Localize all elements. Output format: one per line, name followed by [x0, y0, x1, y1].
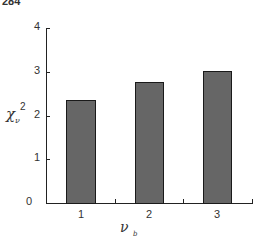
y-tick — [46, 72, 50, 73]
bar-1 — [66, 100, 96, 204]
ylabel-symbol: χ — [6, 105, 15, 123]
x-tick — [252, 199, 253, 203]
y-tick — [46, 116, 50, 117]
x-axis-label: ν b — [120, 219, 137, 237]
ylabel-subscript: ν — [15, 116, 20, 125]
x-tick — [115, 199, 116, 203]
y-tick — [46, 28, 50, 29]
bar-3 — [203, 71, 232, 204]
y-tick — [46, 159, 50, 160]
y-tick-label: 1 — [28, 151, 40, 163]
y-tick-label: 3 — [28, 64, 40, 76]
bar-2 — [135, 82, 164, 204]
x-tick — [183, 199, 184, 203]
y-axis-label: χν2 — [6, 104, 26, 125]
x-tick-label: 2 — [139, 208, 159, 220]
xlabel-subscript: b — [133, 230, 137, 237]
y-tick-label: 4 — [28, 20, 40, 32]
x-tick-label: 1 — [71, 208, 91, 220]
x-tick-label: 3 — [207, 208, 227, 220]
bar-chart: 4 3 2 1 0 1 2 3 χν2 ν b — [0, 0, 254, 237]
y-tick-label: 0 — [20, 195, 32, 207]
xlabel-symbol: ν — [120, 219, 129, 235]
ylabel-superscript: 2 — [20, 101, 26, 112]
y-tick-label: 2 — [28, 108, 40, 120]
